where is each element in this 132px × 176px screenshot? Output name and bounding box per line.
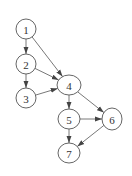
node-label: 3 [23,93,29,105]
node-4: 4 [57,75,81,95]
node-7: 7 [58,143,80,163]
arrow-icon [32,37,62,77]
node-3: 3 [16,88,36,108]
arrow-icon [35,68,59,80]
node-1: 1 [16,19,36,39]
node-label: 5 [66,114,72,126]
arrow-icon [36,88,58,95]
directed-graph: 1234567 [0,0,132,176]
node-label: 7 [66,148,72,160]
arrow-icon [78,92,104,113]
node-label: 2 [23,59,29,71]
node-5: 5 [58,109,80,129]
node-label: 6 [109,114,115,126]
edge-2-to-4 [35,68,59,80]
edge-4-to-6 [78,92,104,113]
edge-3-to-4 [36,88,58,95]
node-label: 4 [66,80,72,92]
arrow-icon [77,125,104,146]
node-label: 1 [23,24,29,36]
node-2: 2 [16,54,36,74]
edge-1-to-4 [32,37,62,77]
node-6: 6 [102,108,122,130]
edge-6-to-7 [77,125,104,146]
